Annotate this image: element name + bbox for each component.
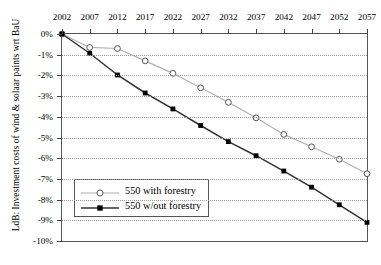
y-axis-tick [57,75,62,76]
data-point-open-circle [225,99,231,105]
data-point-filled-square [226,139,231,144]
x-axis-tick [173,29,174,34]
x-axis-tick [228,29,229,34]
y-axis-tick [57,241,62,242]
y-axis-tick-label: -5% [38,133,53,143]
y-axis-tick [57,220,62,221]
data-point-open-circle [115,46,121,52]
x-axis-tick [312,29,313,34]
x-axis-tick [367,29,368,34]
x-axis-tick-label: 2057 [358,12,376,22]
y-axis-tick [57,96,62,97]
gridline [62,55,367,56]
gridline [62,220,367,221]
chart-legend: 550 with forestry 550 w/out forestry [74,179,209,217]
gridline [62,179,367,180]
data-point-open-circle [87,45,93,51]
y-axis-tick-label: -2% [38,70,53,80]
data-point-open-circle [309,144,315,150]
x-axis-tick [62,29,63,34]
y-axis-tick [57,138,62,139]
y-axis-tick-label: -6% [38,153,53,163]
x-axis-tick-label: 2027 [191,12,209,22]
data-point-filled-square [337,202,342,207]
data-point-open-circle [142,58,148,64]
data-point-filled-square [143,91,148,96]
y-axis-tick-label: -3% [38,91,53,101]
x-axis-tick-label: 2032 [219,12,237,22]
y-axis-title: LdB: Investment costs of wind & solaar p… [11,5,21,245]
data-point-open-circle [281,131,287,137]
chart-figure: LdB: Investment costs of wind & solaar p… [0,0,381,265]
y-axis-tick [57,55,62,56]
y-axis-tick-label: 0% [41,29,53,39]
data-point-filled-square [171,107,176,112]
x-axis-tick [90,29,91,34]
gridline [62,75,367,76]
gridline [62,200,367,201]
x-axis-tick-label: 2002 [53,12,71,22]
y-axis-tick [57,179,62,180]
gridline [62,138,367,139]
x-axis-tick-label: 2007 [81,12,99,22]
y-axis-tick-label: -7% [38,174,53,184]
data-point-filled-square [309,185,314,190]
y-axis-tick-label: -8% [38,195,53,205]
x-axis-tick [201,29,202,34]
x-axis-tick-label: 2042 [275,12,293,22]
legend-marker-open-circle-icon [80,185,120,197]
x-axis-tick [117,29,118,34]
y-axis-tick [57,158,62,159]
data-point-open-circle [198,85,204,91]
y-axis-tick [57,34,62,35]
y-axis-tick [57,200,62,201]
gridline [62,96,367,97]
x-axis-tick-label: 2047 [302,12,320,22]
y-axis-tick-label: -10% [33,236,53,246]
legend-label-without-forestry: 550 w/out forestry [120,200,201,211]
y-axis-tick-label: -9% [38,215,53,225]
x-axis-tick [256,29,257,34]
y-axis-tick-label: -1% [38,50,53,60]
y-axis-tick [57,117,62,118]
x-axis-tick-label: 2022 [164,12,182,22]
x-axis-tick [145,29,146,34]
x-axis-tick-label: 2012 [108,12,126,22]
x-axis-tick-label: 2052 [330,12,348,22]
legend-label-with-forestry: 550 with forestry [120,185,196,196]
gridline [62,117,367,118]
data-point-filled-square [281,169,286,174]
data-point-open-circle [364,171,370,177]
data-point-open-circle [253,115,259,121]
x-axis-tick [284,29,285,34]
data-point-filled-square [198,123,203,128]
y-axis-tick-label: -4% [38,112,53,122]
x-axis-tick-label: 2017 [136,12,154,22]
x-axis-tick-label: 2037 [247,12,265,22]
legend-item-with-forestry: 550 with forestry [80,183,201,198]
gridline [62,158,367,159]
plot-area: 550 with forestry 550 w/out forestry 0%-… [61,33,368,242]
legend-marker-filled-square-icon [80,200,120,212]
x-axis-tick [339,29,340,34]
